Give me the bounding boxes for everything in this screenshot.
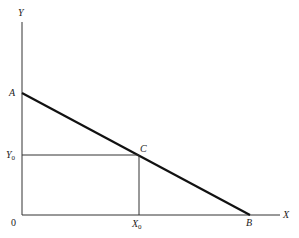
- y0-label: Y0: [6, 149, 16, 162]
- point-b-label: B: [246, 217, 252, 228]
- y-axis-label: Y: [18, 7, 25, 18]
- point-c-label: C: [140, 143, 147, 154]
- x0-label: X0: [131, 218, 142, 231]
- x0-label-subscript: 0: [138, 223, 142, 231]
- line-ab: [22, 93, 250, 215]
- point-a-label: A: [8, 87, 16, 98]
- origin-label: 0: [11, 217, 16, 228]
- y0-label-subscript: 0: [12, 154, 16, 162]
- diagram-canvas: Y X 0 A B C Y0 X0: [0, 0, 299, 238]
- x-axis-label: X: [282, 209, 290, 220]
